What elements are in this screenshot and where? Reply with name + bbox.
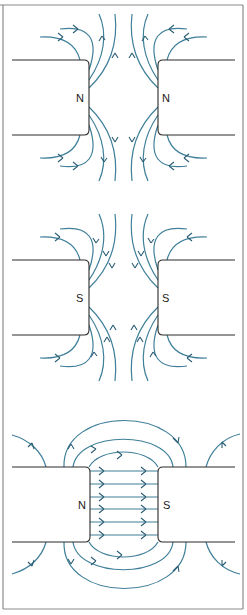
panel-south-south: S S — [12, 214, 235, 381]
panel-north-north: N N — [12, 14, 235, 181]
pole-label-left: N — [76, 92, 84, 104]
field-lines-arcs-bottom — [64, 542, 186, 589]
panel-north-south: N S — [12, 421, 240, 589]
field-lines-arcs-top — [64, 421, 186, 468]
pole-label-right: S — [163, 499, 170, 511]
pole-label-left: N — [78, 499, 86, 511]
magnet-right — [158, 260, 235, 335]
pole-label-left: S — [76, 292, 83, 304]
magnetic-field-diagram: N N — [0, 0, 247, 615]
pole-label-right: S — [162, 292, 169, 304]
pole-label-right: N — [162, 92, 170, 104]
